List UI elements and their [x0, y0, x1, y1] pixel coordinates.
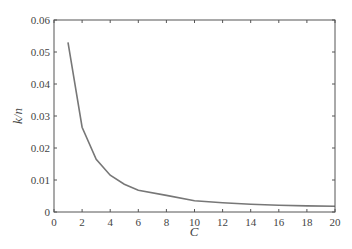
plot-frame — [54, 20, 335, 212]
y-tick-label: 0.02 — [31, 142, 50, 154]
x-tick-label: 6 — [136, 216, 142, 228]
x-tick-label: 14 — [245, 216, 257, 228]
data-line — [68, 42, 335, 206]
x-tick-label: 0 — [51, 216, 57, 228]
line-chart: 0246810121416182000.010.020.030.040.050.… — [0, 0, 352, 249]
y-axis-label: k/n — [10, 108, 25, 124]
x-tick-label: 8 — [164, 216, 170, 228]
x-tick-label: 12 — [217, 216, 228, 228]
y-tick-label: 0.04 — [31, 78, 51, 90]
x-tick-label: 18 — [301, 216, 313, 228]
x-tick-label: 16 — [273, 216, 285, 228]
y-tick-label: 0.03 — [31, 110, 51, 122]
x-axis-label: C — [190, 224, 199, 239]
y-tick-label: 0.01 — [31, 174, 50, 186]
y-tick-label: 0.06 — [31, 14, 51, 26]
x-tick-label: 20 — [330, 216, 342, 228]
x-tick-label: 4 — [107, 216, 113, 228]
y-tick-label: 0 — [45, 206, 51, 218]
x-tick-label: 2 — [79, 216, 85, 228]
y-tick-label: 0.05 — [31, 46, 51, 58]
axis-ticks: 0246810121416182000.010.020.030.040.050.… — [31, 14, 341, 228]
